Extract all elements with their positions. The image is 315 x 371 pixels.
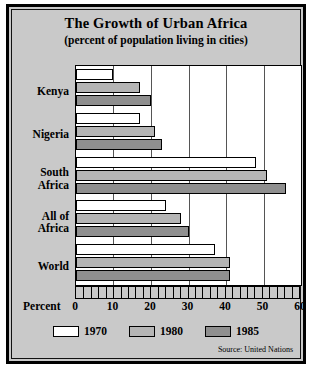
axis-tick: [277, 287, 278, 298]
bar: [76, 95, 151, 106]
axis-tick: [128, 287, 129, 298]
legend-label: 1980: [160, 325, 183, 337]
legend-swatch-1980: [129, 326, 155, 337]
bar: [76, 226, 189, 237]
legend-swatch-1970: [53, 326, 79, 337]
bar-group: [76, 154, 301, 198]
axis-tick: [232, 287, 233, 298]
axis-tick: [225, 287, 226, 298]
chart-title: The Growth of Urban Africa: [9, 15, 303, 32]
x-tick-label-40: 40: [219, 300, 231, 312]
axis-tick: [180, 287, 181, 298]
bar-group: [76, 110, 301, 154]
legend-item-1985: 1985: [205, 325, 259, 337]
bar: [76, 183, 286, 194]
bar: [76, 69, 113, 80]
legend-item-1980: 1980: [129, 325, 183, 337]
x-tick-label-20: 20: [144, 300, 156, 312]
axis-tick: [106, 287, 107, 298]
source-note: Source: United Nations: [218, 345, 293, 354]
bar: [76, 82, 140, 93]
x-tick-label-0: 0: [72, 300, 78, 312]
axis-tick: [284, 287, 285, 298]
bar: [76, 244, 215, 255]
category-label-all-of-africa: All ofAfrica: [9, 210, 69, 235]
axis-tick: [269, 287, 270, 298]
axis-tick: [98, 287, 99, 298]
bar: [76, 200, 166, 211]
axis-tick: [143, 287, 144, 298]
category-label-line: Kenya: [9, 85, 69, 98]
axis-tick: [173, 287, 174, 298]
bar: [76, 257, 230, 268]
legend: 197019801985: [9, 325, 303, 337]
legend-item-1970: 1970: [53, 325, 107, 337]
bar: [76, 113, 140, 124]
axis-tick: [158, 287, 159, 298]
bar: [76, 157, 256, 168]
chart-subtitle: (percent of population living in cities): [9, 33, 303, 48]
bar: [76, 170, 267, 181]
bar: [76, 139, 162, 150]
x-tick-label-50: 50: [257, 300, 269, 312]
x-tick-label-10: 10: [107, 300, 119, 312]
axis-tick: [150, 287, 151, 298]
x-axis-title: Percent: [23, 300, 60, 312]
bar-group: [76, 66, 301, 110]
axis-tick: [91, 287, 92, 298]
category-label-world: World: [9, 260, 69, 273]
title-block: The Growth of Urban Africa (percent of p…: [9, 15, 303, 48]
axis-tick: [135, 287, 136, 298]
axis-tick: [210, 287, 211, 298]
bar: [76, 126, 155, 137]
x-tick-label-30: 30: [182, 300, 194, 312]
bar-group: [76, 241, 301, 285]
legend-swatch-1985: [205, 326, 231, 337]
axis-tick: [188, 287, 189, 298]
category-label-line: South: [9, 166, 69, 179]
axis-tick: [292, 287, 293, 298]
category-label-nigeria: Nigeria: [9, 128, 69, 141]
x-tick-label-60: 60: [294, 300, 306, 312]
axis-tick: [217, 287, 218, 298]
category-label-line: All of: [9, 210, 69, 223]
category-label-line: Africa: [9, 179, 69, 192]
category-label-south-africa: SouthAfrica: [9, 166, 69, 191]
axis-tick: [165, 287, 166, 298]
axis-tick: [121, 287, 122, 298]
axis-tick: [247, 287, 248, 298]
plot-area: [75, 65, 302, 286]
bar-group: [76, 197, 301, 241]
axis-tick: [262, 287, 263, 298]
axis-tick: [202, 287, 203, 298]
chart-frame: The Growth of Urban Africa (percent of p…: [6, 4, 306, 364]
category-label-kenya: Kenya: [9, 85, 69, 98]
category-label-line: Africa: [9, 222, 69, 235]
axis-tick: [195, 287, 196, 298]
category-axis-labels: KenyaNigeriaSouthAfricaAll ofAfricaWorld: [9, 65, 73, 284]
legend-label: 1970: [84, 325, 107, 337]
bar-groups: [76, 66, 301, 285]
axis-tick: [113, 287, 114, 298]
category-label-line: World: [9, 260, 69, 273]
bar: [76, 270, 230, 281]
axis-tick: [254, 287, 255, 298]
x-axis: Percent 0102030405060: [9, 300, 303, 314]
axis-tick: [83, 287, 84, 298]
bar: [76, 213, 181, 224]
legend-label: 1985: [236, 325, 259, 337]
axis-tick: [240, 287, 241, 298]
category-label-line: Nigeria: [9, 128, 69, 141]
axis-ruler-band: [75, 286, 300, 299]
